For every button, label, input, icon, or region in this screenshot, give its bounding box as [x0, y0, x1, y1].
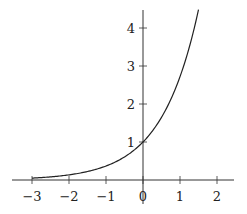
y-tick-label: 2: [127, 97, 135, 112]
y-tick-label: 4: [127, 21, 135, 36]
x-tick-label: 0: [139, 189, 147, 204]
x-tick-label: 2: [213, 189, 221, 204]
y-tick-label: 1: [127, 135, 135, 150]
axes: [12, 10, 234, 204]
x-tick-label: −2: [59, 189, 78, 204]
ticks: [32, 28, 217, 184]
x-tick-label: −1: [96, 189, 115, 204]
x-tick-label: 1: [176, 189, 184, 204]
exp-curve: [32, 10, 199, 178]
exponential-plot: −3−2−10121234: [0, 0, 247, 214]
x-tick-label: −3: [22, 189, 41, 204]
y-tick-label: 3: [127, 59, 135, 74]
